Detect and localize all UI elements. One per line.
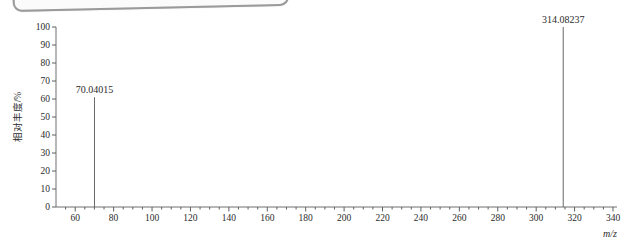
y-axis-tick-label: 10 <box>41 184 51 194</box>
x-axis-tick-label: 100 <box>145 213 160 223</box>
screenshot-root: 0102030405060708090100608010012014016018… <box>0 0 638 244</box>
x-axis-tick-label: 120 <box>183 213 198 223</box>
x-axis-tick-label: 160 <box>260 213 275 223</box>
y-axis-tick-label: 30 <box>41 148 51 158</box>
y-axis-tick-label: 20 <box>41 166 51 176</box>
peak-label: 314.08237 <box>542 14 585 25</box>
y-axis-tick-label: 80 <box>41 58 51 68</box>
y-axis-tick-label: 100 <box>36 22 51 32</box>
y-axis-tick-label: 90 <box>41 40 51 50</box>
y-axis-tick-label: 60 <box>41 94 51 104</box>
peak-label: 70.04015 <box>76 84 114 95</box>
spectrum-svg: 0102030405060708090100608010012014016018… <box>0 0 638 244</box>
x-axis-tick-label: 280 <box>491 213 506 223</box>
y-axis-tick-label: 70 <box>41 76 51 86</box>
x-axis-tick-label: 180 <box>299 213 314 223</box>
y-axis-tick-label: 0 <box>45 202 50 212</box>
x-axis-tick-label: 340 <box>606 213 621 223</box>
x-axis-tick-label: 140 <box>222 213 237 223</box>
y-axis-title: 相对丰度/% <box>12 92 23 143</box>
x-axis-tick-label: 60 <box>70 213 80 223</box>
x-axis-tick-label: 240 <box>414 213 429 223</box>
x-axis-tick-label: 260 <box>452 213 467 223</box>
y-axis-tick-label: 50 <box>41 112 51 122</box>
x-axis-title: m/z <box>603 228 617 239</box>
x-axis-tick-label: 220 <box>375 213 390 223</box>
x-axis-tick-label: 320 <box>567 213 582 223</box>
x-axis-tick-label: 200 <box>337 213 352 223</box>
y-axis-tick-label: 40 <box>41 130 51 140</box>
x-axis-tick-label: 300 <box>529 213 544 223</box>
mass-spectrum-chart: 0102030405060708090100608010012014016018… <box>0 0 638 244</box>
x-axis-tick-label: 80 <box>109 213 119 223</box>
